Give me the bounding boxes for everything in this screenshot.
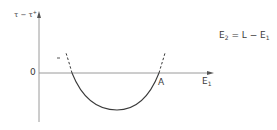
y-axis-arrow-icon xyxy=(37,11,41,18)
point-a-label: A xyxy=(158,78,164,87)
curve-solid xyxy=(72,73,159,110)
x-axis-arrow-icon xyxy=(207,71,214,75)
curve-dashed-left xyxy=(66,53,72,73)
x-axis-label: E1 xyxy=(202,77,212,87)
origin-label: 0 xyxy=(30,68,36,77)
y-axis-label: τ − τ+ xyxy=(14,10,37,19)
curve-dashed-right xyxy=(159,53,165,73)
diagram-canvas xyxy=(0,0,277,130)
equation-label: E2 = L − E1 xyxy=(219,31,270,41)
